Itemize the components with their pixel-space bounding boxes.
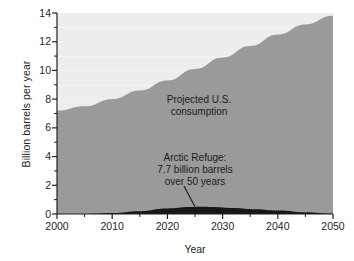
x-axis-title: Year: [57, 243, 333, 255]
annotation-arctic-refuge: Arctic Refuge: 7.7 billion barrels over …: [125, 152, 265, 188]
x-tick-label: 2030: [193, 221, 253, 232]
x-tick-label: 2050: [303, 221, 354, 232]
y-axis-title: Billion barrels per year: [20, 14, 32, 214]
annotation-projected-consumption: Projected U.S. consumption: [140, 94, 258, 118]
x-axis-tick-labels: 200020102020203020402050: [0, 0, 354, 261]
x-tick-label: 2000: [27, 221, 87, 232]
chart-figure: 02468101214 200020102020203020402050 Bil…: [0, 0, 354, 261]
x-tick-label: 2040: [248, 221, 308, 232]
x-tick-label: 2020: [137, 221, 197, 232]
x-tick-label: 2010: [82, 221, 142, 232]
